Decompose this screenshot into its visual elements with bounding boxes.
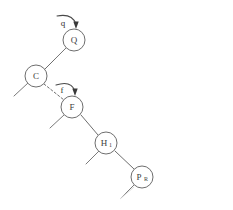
node-h-label-text: H [101,138,108,148]
node-p-label-text: P [136,172,141,182]
arrow-f-head [72,89,77,97]
arrow-f-curve [56,83,75,91]
stub-q-left [55,48,66,59]
node-p-subscript: R [144,176,148,182]
node-q-label: Q [71,35,78,45]
node-h-label: H [101,138,108,148]
edge-group [44,48,134,169]
edge-h-p [115,151,134,169]
arrow-f-group: f [56,83,78,96]
figure-root: Q C F H 1 P R q [0,0,233,210]
node-p-label: P [136,172,141,182]
stub-h-left [86,151,99,164]
stub-c-left [14,83,28,96]
scan-artifact-line [120,187,134,199]
node-p[interactable]: P R [131,166,153,188]
node-c[interactable]: C [25,65,47,87]
arrow-q-head [73,22,78,30]
node-f[interactable]: F [61,96,83,118]
arrow-f-label: f [61,85,64,95]
tree-diagram-canvas: Q C F H 1 P R q [0,0,233,210]
node-f-label: F [69,102,74,112]
node-h[interactable]: H 1 [95,132,117,154]
node-q[interactable]: Q [63,29,85,51]
edge-f-h [81,115,98,135]
stub-f-left [50,115,64,128]
node-c-label: C [33,71,39,81]
node-p-circle [131,166,153,188]
arrow-q-group: q [57,15,79,29]
arrow-q-label: q [61,18,66,28]
node-h-subscript: 1 [109,142,112,148]
